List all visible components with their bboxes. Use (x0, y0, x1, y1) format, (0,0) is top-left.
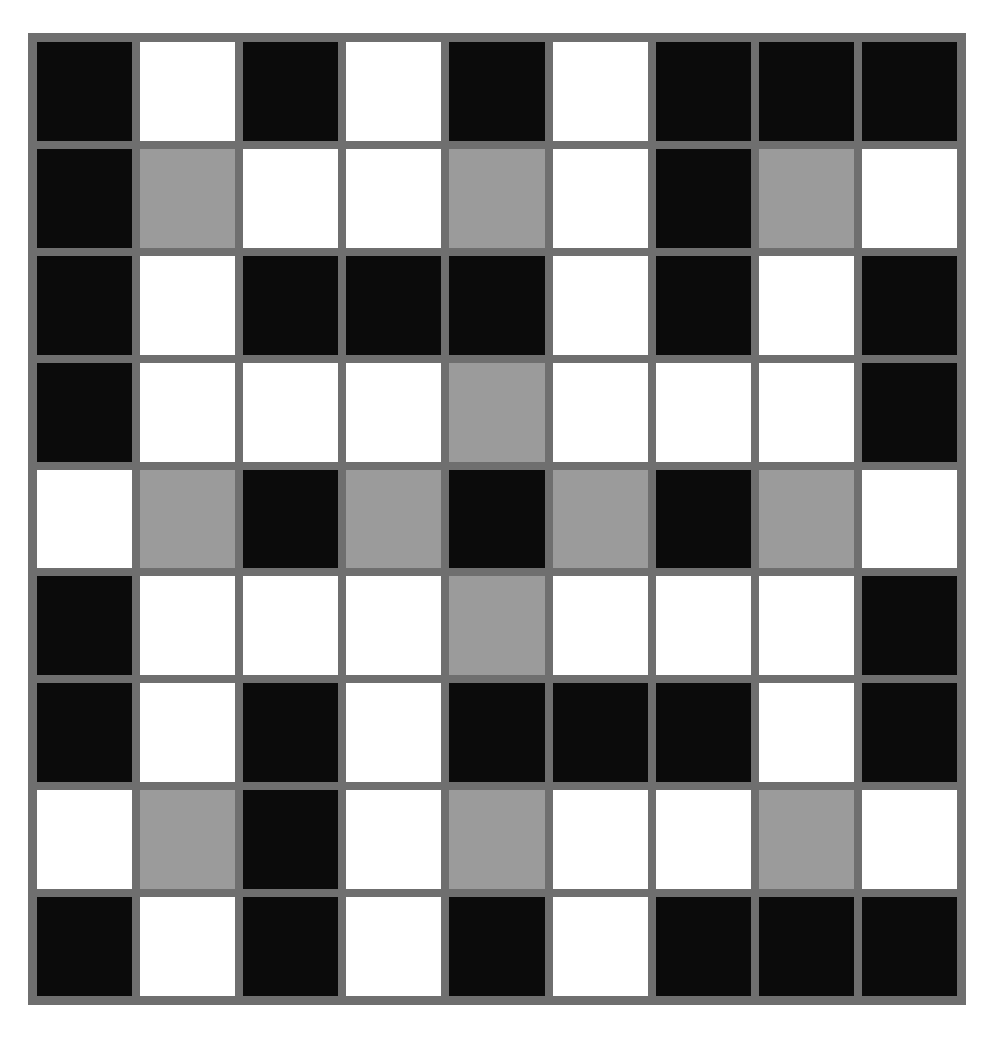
grid-cell-r4-c7-white (656, 363, 751, 462)
grid-cell-r8-c3-black (243, 790, 338, 889)
grid-cell-r6-c3-white (243, 576, 338, 675)
grid-cell-r9-c1-black (37, 897, 132, 996)
grid-cell-r6-c1-black (37, 576, 132, 675)
grid-cell-r6-c4-white (346, 576, 441, 675)
grid-cell-r9-c7-black (656, 897, 751, 996)
grid-cell-r3-c1-black (37, 256, 132, 355)
grid-cell-r4-c5-gray (449, 363, 544, 462)
grid-cell-r6-c6-white (553, 576, 648, 675)
grid-cell-r7-c3-black (243, 683, 338, 782)
grid-cell-r1-c8-black (759, 42, 854, 141)
grid-cell-r2-c2-gray (140, 149, 235, 248)
grid-cell-r5-c7-black (656, 470, 751, 569)
grid-cell-r5-c6-gray (553, 470, 648, 569)
grid-cell-r7-c1-black (37, 683, 132, 782)
grid-cell-r5-c9-white (862, 470, 957, 569)
grid-cell-r2-c7-black (656, 149, 751, 248)
page (0, 0, 999, 1037)
grid-cell-r9-c6-white (553, 897, 648, 996)
grid-cell-r8-c2-gray (140, 790, 235, 889)
grid-cell-r4-c9-black (862, 363, 957, 462)
grid-board (28, 33, 966, 1005)
grid-cell-r5-c5-black (449, 470, 544, 569)
grid-cell-r5-c2-gray (140, 470, 235, 569)
grid-cell-r8-c1-white (37, 790, 132, 889)
grid-cell-r6-c7-white (656, 576, 751, 675)
grid-cell-r1-c2-white (140, 42, 235, 141)
grid-cell-r4-c4-white (346, 363, 441, 462)
grid-cell-r4-c1-black (37, 363, 132, 462)
grid-cell-r6-c2-white (140, 576, 235, 675)
grid-cell-r3-c6-white (553, 256, 648, 355)
grid-cell-r7-c7-black (656, 683, 751, 782)
grid-cell-r3-c8-white (759, 256, 854, 355)
grid-cell-r2-c9-white (862, 149, 957, 248)
grid-cell-r8-c7-white (656, 790, 751, 889)
grid-cell-r8-c9-white (862, 790, 957, 889)
grid-cell-r2-c1-black (37, 149, 132, 248)
grid-cell-r3-c9-black (862, 256, 957, 355)
grid-cell-r5-c1-white (37, 470, 132, 569)
grid-cell-r4-c8-white (759, 363, 854, 462)
grid-cell-r2-c3-white (243, 149, 338, 248)
grid-cell-r4-c3-white (243, 363, 338, 462)
grid-cell-r2-c4-white (346, 149, 441, 248)
grid-cell-r1-c7-black (656, 42, 751, 141)
grid-cell-r7-c6-black (553, 683, 648, 782)
grid-cell-r6-c5-gray (449, 576, 544, 675)
grid-cell-r9-c2-white (140, 897, 235, 996)
grid-cell-r5-c8-gray (759, 470, 854, 569)
grid-cell-r7-c9-black (862, 683, 957, 782)
grid-cell-r3-c4-black (346, 256, 441, 355)
grid-cell-r5-c4-gray (346, 470, 441, 569)
grid-cell-r8-c6-white (553, 790, 648, 889)
grid-cell-r7-c4-white (346, 683, 441, 782)
grid-cell-r7-c5-black (449, 683, 544, 782)
grid-cell-r7-c2-white (140, 683, 235, 782)
grid-cell-r1-c9-black (862, 42, 957, 141)
grid-cell-r1-c6-white (553, 42, 648, 141)
grid-cell-r9-c9-black (862, 897, 957, 996)
grid-cell-r3-c5-black (449, 256, 544, 355)
grid-cell-r6-c8-white (759, 576, 854, 675)
grid-cell-r9-c8-black (759, 897, 854, 996)
grid-cell-r3-c7-black (656, 256, 751, 355)
grid-cell-r4-c6-white (553, 363, 648, 462)
grid-cell-r1-c5-black (449, 42, 544, 141)
grid-cell-r9-c5-black (449, 897, 544, 996)
grid-cell-r8-c5-gray (449, 790, 544, 889)
grid-cell-r1-c3-black (243, 42, 338, 141)
grid-cell-r4-c2-white (140, 363, 235, 462)
grid-cell-r1-c4-white (346, 42, 441, 141)
grid-cell-r8-c8-gray (759, 790, 854, 889)
grid-cell-r8-c4-white (346, 790, 441, 889)
grid-cell-r5-c3-black (243, 470, 338, 569)
grid-cell-r3-c2-white (140, 256, 235, 355)
grid-cell-r3-c3-black (243, 256, 338, 355)
grid-cell-r9-c3-black (243, 897, 338, 996)
grid-cell-r9-c4-white (346, 897, 441, 996)
grid-cell-r1-c1-black (37, 42, 132, 141)
grid-cell-r2-c5-gray (449, 149, 544, 248)
clipped-caption (28, 1026, 968, 1037)
grid-cell-r7-c8-white (759, 683, 854, 782)
grid-cell-r2-c6-white (553, 149, 648, 248)
grid-cell-r6-c9-black (862, 576, 957, 675)
grid-cell-r2-c8-gray (759, 149, 854, 248)
